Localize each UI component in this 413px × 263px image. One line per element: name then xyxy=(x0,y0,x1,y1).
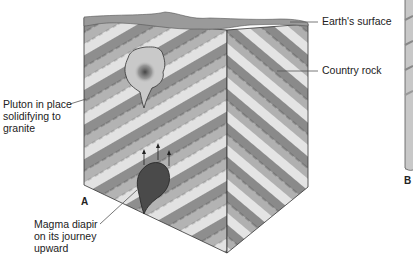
panel-a-label: A xyxy=(81,196,88,207)
block-right-face xyxy=(227,24,308,253)
country-rock-label: Country rock xyxy=(322,64,382,76)
earth-surface-label: Earth's surface xyxy=(322,15,392,27)
pluton-label: Pluton in place solidifying to granite xyxy=(3,98,72,134)
block-b-partial xyxy=(405,0,413,170)
diapir-label: Magma diapir on its journey upward xyxy=(34,218,98,254)
panel-b-label: B xyxy=(404,175,411,186)
